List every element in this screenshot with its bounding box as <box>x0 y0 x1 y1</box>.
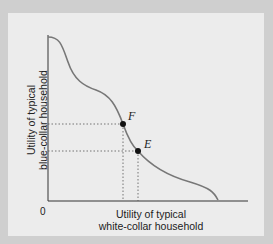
point-e <box>135 148 141 154</box>
x-axis-label: Utility of typical white-collar househol… <box>96 208 206 232</box>
origin-label: 0 <box>40 206 46 217</box>
point-e-label: E <box>144 137 151 152</box>
y-axis-label: Utility of typical blue-collar household <box>25 45 49 195</box>
x-axis-label-line1: Utility of typical <box>96 208 206 220</box>
y-axis-label-line1: Utility of typical <box>25 45 37 195</box>
y-axis-label-line2: blue-collar household <box>37 45 49 195</box>
point-f-label: F <box>128 109 135 124</box>
point-f <box>120 121 126 127</box>
figure-frame: F E Utility of typical blue-collar house… <box>0 0 273 244</box>
x-axis-label-line2: white-collar household <box>96 220 206 232</box>
